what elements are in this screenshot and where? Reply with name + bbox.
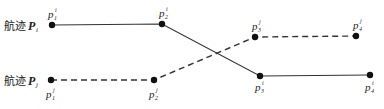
point-j-1 (48, 77, 54, 83)
label-p4-j: p 4 j (352, 18, 362, 32)
svg-text:p: p (47, 8, 54, 20)
point-j-3 (252, 34, 258, 40)
svg-text:p: p (364, 81, 371, 93)
point-j-4 (353, 33, 359, 39)
svg-text:P: P (28, 19, 36, 33)
svg-text:P: P (28, 74, 36, 88)
svg-text:j: j (35, 81, 38, 89)
point-i-1 (49, 22, 55, 28)
svg-text:i: i (262, 80, 264, 86)
label-p4-i: p 4 i (364, 80, 374, 94)
svg-text:1: 1 (54, 15, 57, 21)
trajectory-j-label: 航迹 P j (4, 74, 38, 89)
svg-text:j: j (155, 87, 158, 93)
svg-text:p: p (254, 81, 261, 93)
svg-text:p: p (148, 88, 155, 100)
svg-text:j: j (359, 18, 362, 24)
point-i-3 (257, 73, 263, 79)
label-p3-j: p 3 j (251, 19, 261, 33)
point-j-2 (151, 77, 157, 83)
label-p2-j: p 2 j (148, 87, 158, 101)
point-i-4 (367, 72, 373, 78)
svg-text:p: p (251, 20, 258, 32)
trajectory-i-line (52, 24, 370, 76)
svg-text:2: 2 (165, 14, 168, 20)
svg-text:3: 3 (257, 27, 261, 33)
svg-text:p: p (158, 7, 165, 19)
label-p1-i: p 1 i (47, 7, 57, 21)
svg-text:i: i (166, 6, 168, 12)
label-p1-j: p 1 j (45, 87, 55, 101)
svg-text:p: p (45, 88, 52, 100)
svg-text:i: i (55, 7, 57, 13)
svg-text:1: 1 (52, 95, 55, 101)
svg-text:2: 2 (155, 95, 158, 101)
point-i-2 (159, 21, 165, 27)
svg-text:3: 3 (260, 88, 264, 94)
trajectory-diagram: 航迹 P i 航迹 P j p 1 i p 2 i p 3 i p 4 i p … (0, 0, 384, 109)
svg-text:4: 4 (359, 26, 362, 32)
svg-text:i: i (36, 26, 38, 34)
svg-text:j: j (258, 19, 261, 25)
svg-text:p: p (352, 19, 359, 31)
label-p2-i: p 2 i (158, 6, 168, 20)
label-p3-i: p 3 i (254, 80, 264, 94)
svg-text:4: 4 (371, 88, 374, 94)
svg-text:i: i (372, 80, 374, 86)
trajectory-i-label: 航迹 P i (4, 19, 38, 34)
trajectory-j-line (51, 36, 356, 80)
svg-text:j: j (52, 87, 55, 93)
svg-text:航迹: 航迹 (4, 74, 26, 88)
svg-text:航迹: 航迹 (4, 19, 26, 33)
